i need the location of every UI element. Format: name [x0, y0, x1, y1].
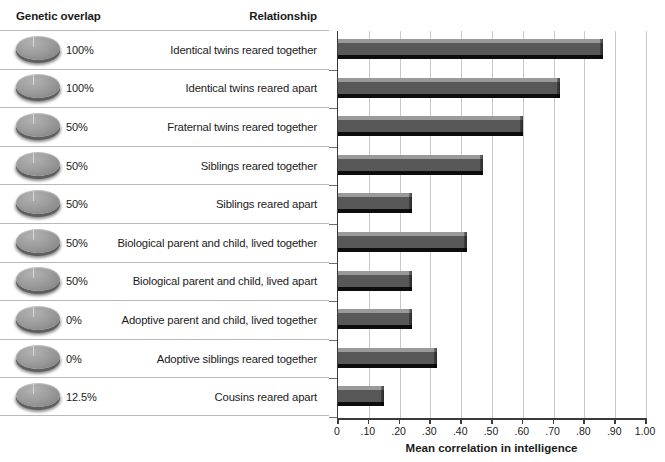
- disc-shape: [16, 152, 60, 176]
- genetic-overlap-disc-icon: [14, 34, 62, 66]
- genetic-overlap-value: 50%: [66, 160, 88, 172]
- x-tick: [614, 418, 616, 424]
- genetic-overlap-value: 100%: [66, 82, 94, 94]
- genetic-overlap-value: 12.5%: [66, 391, 97, 403]
- x-tick-label: .10: [360, 425, 375, 437]
- x-tick: [522, 418, 524, 424]
- relationship-label: Siblings reared apart: [88, 198, 329, 210]
- relationship-label: Adoptive parent and child, lived togethe…: [82, 314, 329, 326]
- table-row: 50%Fraternal twins reared together: [0, 107, 329, 146]
- bar: [338, 78, 560, 98]
- bar: [338, 39, 603, 59]
- genetic-overlap-value: 0%: [66, 314, 82, 326]
- bar-slot: [338, 301, 645, 340]
- x-tick: [399, 418, 401, 424]
- column-header-genetic-overlap: Genetic overlap: [16, 10, 101, 22]
- x-tick: [645, 418, 647, 424]
- disc-split-line: [33, 384, 34, 394]
- relationship-label: Identical twins reared together: [94, 44, 329, 56]
- x-axis-title: Mean correlation in intelligence: [337, 442, 646, 454]
- disc-shape: [16, 383, 60, 407]
- disc-shape: [16, 74, 60, 98]
- x-tick-label: .60: [514, 425, 529, 437]
- genetic-overlap-value: 50%: [66, 121, 88, 133]
- bar-slot: [338, 70, 645, 109]
- x-tick: [491, 418, 493, 424]
- table-body: 100%Identical twins reared together100%I…: [0, 30, 329, 416]
- x-tick-label: .80: [576, 425, 591, 437]
- x-tick: [368, 418, 370, 424]
- bar-slot: [338, 224, 645, 263]
- disc-shape: [16, 113, 60, 137]
- genetic-overlap-value: 0%: [66, 353, 82, 365]
- x-tick-label: 0: [334, 425, 340, 437]
- table-row: 50%Siblings reared together: [0, 146, 329, 185]
- chart-figure: Genetic overlap Relationship 100%Identic…: [0, 0, 665, 462]
- bar: [338, 309, 412, 329]
- disc-split-line: [33, 75, 34, 85]
- disc-shape: [16, 190, 60, 214]
- disc-shape: [16, 267, 60, 291]
- genetic-overlap-disc-icon: [14, 304, 62, 336]
- disc-shape: [16, 345, 60, 369]
- relationship-label: Adoptive siblings reared together: [82, 353, 329, 365]
- bar-slot: [338, 31, 645, 70]
- y-tick: [329, 147, 337, 148]
- relationship-label: Identical twins reared apart: [94, 82, 329, 94]
- x-tick: [337, 418, 339, 424]
- x-tick: [583, 418, 585, 424]
- bar: [338, 193, 412, 213]
- bar: [338, 386, 384, 406]
- bar-slot: [338, 147, 645, 186]
- x-tick: [429, 418, 431, 424]
- y-tick: [329, 185, 337, 186]
- genetic-overlap-disc-icon: [14, 111, 62, 143]
- x-tick-label: .70: [545, 425, 560, 437]
- relationship-label: Biological parent and child, lived apart: [88, 275, 329, 287]
- bar-chart-panel: [329, 0, 665, 462]
- y-tick: [329, 301, 337, 302]
- table-row: 50%Biological parent and child, lived to…: [0, 223, 329, 262]
- table-row: 100%Identical twins reared together: [0, 30, 329, 69]
- disc-split-line: [33, 153, 34, 163]
- bar: [338, 348, 437, 368]
- table-row: 12.5%Cousins reared apart: [0, 377, 329, 416]
- genetic-overlap-disc-icon: [14, 343, 62, 375]
- disc-split-line: [33, 268, 34, 278]
- y-tick: [329, 108, 337, 109]
- disc-split-line: [33, 191, 34, 201]
- bar-slot: [338, 108, 645, 147]
- y-tick: [329, 263, 337, 264]
- bar-slot: [338, 340, 645, 379]
- x-tick-label: .90: [607, 425, 622, 437]
- disc-split-line: [33, 346, 34, 356]
- relationship-label: Cousins reared apart: [97, 391, 329, 403]
- plot-area: [337, 31, 645, 418]
- bar: [338, 232, 467, 252]
- x-tick-label: .20: [391, 425, 406, 437]
- genetic-overlap-disc-icon: [14, 72, 62, 104]
- genetic-overlap-disc-icon: [14, 381, 62, 413]
- y-tick: [329, 224, 337, 225]
- disc-split-line: [33, 114, 34, 124]
- y-axis-ticks: [329, 31, 337, 418]
- disc-split-line: [33, 230, 34, 240]
- disc-shape: [16, 36, 60, 60]
- table-row: 50%Siblings reared apart: [0, 184, 329, 223]
- x-tick-label: .40: [453, 425, 468, 437]
- genetic-overlap-value: 50%: [66, 198, 88, 210]
- table-header-row: Genetic overlap Relationship: [0, 8, 329, 30]
- genetic-overlap-disc-icon: [14, 188, 62, 220]
- relationship-label: Siblings reared together: [88, 160, 329, 172]
- table-row: 0%Adoptive parent and child, lived toget…: [0, 300, 329, 339]
- gridline: [646, 31, 647, 418]
- table-row: 100%Identical twins reared apart: [0, 69, 329, 108]
- disc-split-line: [33, 37, 34, 47]
- table-row: 50%Biological parent and child, lived ap…: [0, 262, 329, 301]
- relationship-label: Biological parent and child, lived toget…: [88, 237, 329, 249]
- bar-slot: [338, 263, 645, 302]
- y-tick: [329, 378, 337, 379]
- relationship-label: Fraternal twins reared together: [88, 121, 329, 133]
- relationship-table: Genetic overlap Relationship 100%Identic…: [0, 0, 329, 462]
- table-row: 0%Adoptive siblings reared together: [0, 339, 329, 378]
